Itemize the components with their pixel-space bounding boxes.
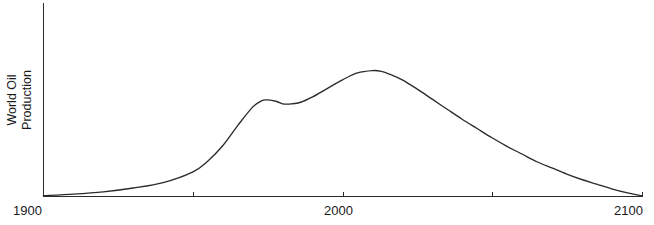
chart-figure: World Oil Production 1900 2000 2100 <box>0 0 654 225</box>
y-axis-label-line-2: Production <box>19 70 34 130</box>
x-tick-label-1900: 1900 <box>13 204 42 217</box>
y-axis-label-line-1: World Oil <box>5 70 20 130</box>
x-tick-label-2000: 2000 <box>324 204 353 217</box>
x-axis-tick-marks <box>45 192 643 197</box>
x-tick-label-2100: 2100 <box>614 204 643 217</box>
y-axis-label: World Oil Production <box>2 47 36 152</box>
oil-production-curve <box>44 71 642 196</box>
chart-plot-area <box>0 0 654 225</box>
